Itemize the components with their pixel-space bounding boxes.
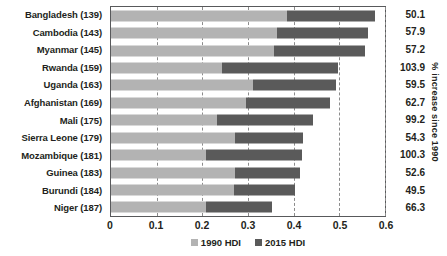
bar-row bbox=[111, 7, 385, 24]
bar-2015-hdi bbox=[206, 150, 301, 161]
bar-1990-hdi bbox=[111, 184, 234, 195]
category-label: Afghanistan (169) bbox=[0, 94, 106, 112]
category-label: Niger (187) bbox=[0, 199, 106, 217]
bar-2015-hdi bbox=[217, 115, 313, 126]
x-tick-label: 0.4 bbox=[287, 219, 302, 231]
bar-2015-hdi bbox=[287, 10, 375, 21]
x-tick-label: 0.2 bbox=[195, 219, 210, 231]
x-tick-label: 0 bbox=[107, 219, 113, 231]
secondary-axis-title: % increase since 1990 bbox=[426, 6, 444, 217]
percent-increase-value: 103.9 bbox=[388, 59, 425, 77]
bar-2015-hdi bbox=[246, 97, 330, 108]
category-label: Mozambique (181) bbox=[0, 147, 106, 165]
bar-row bbox=[111, 24, 385, 41]
category-axis: Bangladesh (139)Cambodia (143)Myanmar (1… bbox=[0, 6, 106, 217]
secondary-axis-title-label: % increase since 1990 bbox=[430, 62, 440, 161]
x-axis: 00.10.20.30.40.50.6 bbox=[110, 219, 386, 235]
bar-1990-hdi bbox=[111, 167, 235, 178]
bar-row bbox=[111, 77, 385, 94]
bar-1990-hdi bbox=[111, 28, 277, 39]
percent-increase-value: 99.2 bbox=[388, 111, 425, 129]
legend-swatch-icon bbox=[191, 239, 198, 246]
bar-row bbox=[111, 146, 385, 163]
bar-row bbox=[111, 129, 385, 146]
chart-legend: 1990 HDI2015 HDI bbox=[110, 237, 386, 248]
category-label: Myanmar (145) bbox=[0, 41, 106, 59]
legend-item[interactable]: 1990 HDI bbox=[191, 237, 241, 248]
bar-2015-hdi bbox=[253, 80, 337, 91]
bar-row bbox=[111, 59, 385, 76]
bar-1990-hdi bbox=[111, 115, 217, 126]
bar-1990-hdi bbox=[111, 150, 206, 161]
percent-increase-value: 52.6 bbox=[388, 164, 425, 182]
bar-1990-hdi bbox=[111, 45, 274, 56]
x-tick-label: 0.5 bbox=[333, 219, 348, 231]
bar-row bbox=[111, 94, 385, 111]
category-label: Sierra Leone (179) bbox=[0, 129, 106, 147]
bar-1990-hdi bbox=[111, 62, 222, 73]
bar-row bbox=[111, 181, 385, 198]
x-tick-label: 0.3 bbox=[241, 219, 256, 231]
percent-increase-value: 54.3 bbox=[388, 129, 425, 147]
bar-row bbox=[111, 199, 385, 216]
percent-increase-value: 50.1 bbox=[388, 6, 425, 24]
bar-row bbox=[111, 164, 385, 181]
category-label: Uganda (163) bbox=[0, 76, 106, 94]
category-label: Rwanda (159) bbox=[0, 59, 106, 77]
bar-2015-hdi bbox=[235, 167, 300, 178]
x-tick-label: 0.1 bbox=[149, 219, 164, 231]
percent-increase-value: 57.2 bbox=[388, 41, 425, 59]
percent-increase-value: 59.5 bbox=[388, 76, 425, 94]
plot-area bbox=[110, 6, 386, 217]
category-label: Guinea (183) bbox=[0, 164, 106, 182]
bar-row bbox=[111, 42, 385, 59]
bar-2015-hdi bbox=[274, 45, 364, 56]
secondary-value-column: 50.157.957.2103.959.562.799.254.3100.352… bbox=[388, 6, 425, 217]
bar-series-group bbox=[111, 7, 385, 216]
legend-label: 2015 HDI bbox=[265, 237, 305, 248]
bar-1990-hdi bbox=[111, 97, 246, 108]
bar-2015-hdi bbox=[206, 202, 272, 213]
bar-2015-hdi bbox=[234, 184, 295, 195]
legend-label: 1990 HDI bbox=[201, 237, 241, 248]
percent-increase-value: 57.9 bbox=[388, 24, 425, 42]
legend-swatch-icon bbox=[255, 239, 262, 246]
bar-1990-hdi bbox=[111, 132, 235, 143]
legend-item[interactable]: 2015 HDI bbox=[255, 237, 305, 248]
hdi-bar-chart: Bangladesh (139)Cambodia (143)Myanmar (1… bbox=[0, 0, 447, 256]
category-label: Bangladesh (139) bbox=[0, 6, 106, 24]
percent-increase-value: 49.5 bbox=[388, 182, 425, 200]
bar-1990-hdi bbox=[111, 202, 206, 213]
bar-1990-hdi bbox=[111, 80, 253, 91]
bar-row bbox=[111, 112, 385, 129]
category-label: Cambodia (143) bbox=[0, 24, 106, 42]
x-tick-label: 0.6 bbox=[379, 219, 394, 231]
percent-increase-value: 66.3 bbox=[388, 199, 425, 217]
bar-2015-hdi bbox=[277, 28, 368, 39]
percent-increase-value: 100.3 bbox=[388, 147, 425, 165]
category-label: Burundi (184) bbox=[0, 182, 106, 200]
bar-1990-hdi bbox=[111, 10, 287, 21]
bar-2015-hdi bbox=[222, 62, 338, 73]
gridline bbox=[385, 7, 386, 216]
category-label: Mali (175) bbox=[0, 111, 106, 129]
bar-2015-hdi bbox=[235, 132, 303, 143]
percent-increase-value: 62.7 bbox=[388, 94, 425, 112]
